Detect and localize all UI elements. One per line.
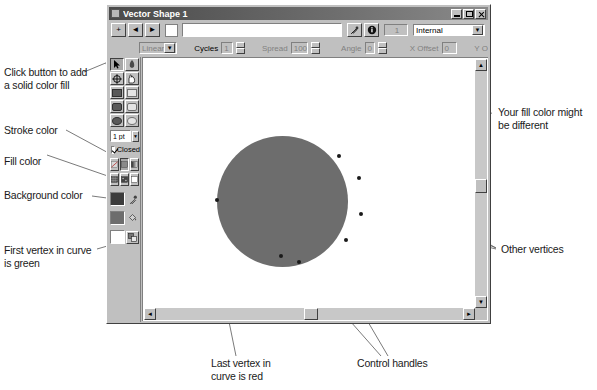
background-color-swatch[interactable] (110, 230, 125, 244)
info-icon[interactable] (364, 23, 379, 37)
no-fill-button[interactable] (110, 158, 119, 171)
gradient-fill-button[interactable] (130, 158, 139, 171)
filled-roundrect-tool[interactable] (110, 100, 124, 113)
pen-tool[interactable] (125, 58, 139, 71)
dropper-icon[interactable] (126, 192, 139, 206)
dropper-glyph (350, 26, 359, 35)
white-fill-icon (131, 175, 138, 184)
vector-shape-icon (111, 9, 120, 18)
cycles-field[interactable]: 1 (221, 42, 233, 54)
annotation-fill-color: Fill color (4, 155, 41, 168)
gradient-type-dropdown[interactable]: Linear ▼ (139, 42, 177, 54)
spread-stepper[interactable] (311, 42, 320, 54)
stroke-color-swatch[interactable] (110, 192, 125, 206)
pick-color-icon[interactable] (347, 23, 362, 37)
pointer-tool[interactable] (110, 58, 124, 71)
paint-bucket-glyph (128, 213, 137, 224)
scope-dropdown[interactable]: Internal ▼ (413, 24, 485, 36)
window-title: Vector Shape 1 (123, 9, 451, 19)
vertical-scrollbar[interactable]: ▲ ▼ (475, 59, 487, 308)
previous-stop-button[interactable]: ◄ (128, 23, 143, 37)
vertex-top-right[interactable] (337, 154, 341, 158)
swap-colors-icon[interactable] (126, 231, 139, 244)
scrollbar-corner (475, 308, 487, 320)
fill-color-swatch[interactable] (110, 211, 125, 225)
pointer-icon (113, 60, 121, 69)
horizontal-scrollbar[interactable]: ◄ ► (144, 308, 475, 320)
vertex-bottom[interactable] (297, 260, 301, 264)
closed-checkbox-row[interactable]: Closed (111, 145, 140, 154)
annotation-other-vertices: Other vertices (501, 243, 564, 256)
outline-ellipse-icon (127, 117, 137, 125)
scroll-up-button[interactable]: ▲ (475, 59, 487, 71)
hand-tool[interactable] (125, 72, 139, 85)
filled-ellipse-icon (112, 117, 122, 125)
vertical-scroll-thumb[interactable] (475, 179, 487, 193)
scroll-down-button[interactable]: ▼ (475, 296, 487, 308)
pen-width-chevron-icon[interactable]: ▼ (132, 131, 139, 142)
color-chip-swatch[interactable] (165, 24, 178, 37)
vertex-right-lower[interactable] (344, 238, 348, 242)
angle-label: Angle (341, 44, 361, 53)
texture-fill-icon (121, 175, 128, 184)
annotation-your-fill: Your fill color might be different (498, 106, 596, 132)
cycles-label: Cycles (194, 44, 218, 53)
vector-shape-window: Vector Shape 1 + ◄ ► (106, 4, 491, 324)
annotation-last-vertex: Last vertex in curve is red (211, 357, 306, 383)
vertex-bottom-left[interactable] (279, 254, 283, 258)
scope-dropdown-value: Internal (414, 26, 472, 35)
outline-rect-icon (127, 89, 137, 97)
crosshair-tool[interactable] (110, 72, 124, 85)
maximize-button[interactable] (463, 9, 474, 19)
drawing-canvas[interactable]: ▲ ▼ ◄ ► (142, 57, 488, 321)
vertex-left[interactable] (215, 198, 219, 202)
spread-field[interactable]: 100 (291, 42, 308, 54)
chevron-down-icon-2[interactable]: ▼ (164, 43, 175, 53)
stop-index-field[interactable]: 1 (384, 24, 408, 36)
no-fill-icon (111, 160, 118, 169)
outline-rect-tool[interactable] (125, 86, 139, 99)
solid-color-fill-button[interactable] (120, 158, 129, 171)
filled-roundrect-icon (112, 103, 122, 111)
annotation-stroke-color: Stroke color (4, 124, 58, 137)
window-titlebar[interactable]: Vector Shape 1 (109, 7, 488, 20)
filled-ellipse-tool[interactable] (110, 114, 124, 127)
scroll-right-button[interactable]: ► (463, 308, 475, 320)
outline-roundrect-tool[interactable] (125, 100, 139, 113)
vertex-right-mid[interactable] (359, 212, 363, 216)
pattern-fill-button[interactable] (110, 173, 119, 186)
angle-field[interactable]: 0 (365, 42, 375, 54)
close-button[interactable] (475, 9, 486, 19)
swap-colors-glyph (128, 233, 137, 242)
xoffset-field[interactable]: 0 (442, 42, 458, 54)
horizontal-scroll-thumb[interactable] (304, 308, 318, 320)
closed-checkbox[interactable] (111, 146, 115, 154)
chevron-down-icon[interactable]: ▼ (472, 25, 483, 35)
minimize-button[interactable] (451, 9, 462, 19)
closed-label: Closed (117, 145, 140, 154)
pen-icon (129, 60, 135, 70)
pattern-fill-icon (111, 175, 118, 184)
filled-rect-tool[interactable] (110, 86, 124, 99)
next-stop-button[interactable]: ► (145, 23, 160, 37)
scroll-left-button[interactable]: ◄ (144, 308, 156, 320)
texture-fill-button[interactable] (120, 173, 129, 186)
tool-palette: 1 pt ▼ Closed (109, 57, 141, 322)
pen-width-dropdown[interactable]: 1 pt (110, 130, 131, 142)
add-gradient-stop-button[interactable]: + (111, 23, 126, 37)
info-glyph (367, 25, 377, 35)
gradient-fill-icon (131, 160, 138, 169)
cycles-stepper[interactable] (236, 42, 245, 54)
paint-bucket-icon[interactable] (126, 211, 139, 225)
outline-ellipse-tool[interactable] (125, 114, 139, 127)
gradient-ramp-field[interactable] (182, 23, 342, 37)
filled-circle-shape[interactable] (217, 136, 348, 267)
angle-stepper[interactable] (378, 42, 387, 54)
vertex-right-upper[interactable] (357, 176, 361, 180)
gradient-properties-toolbar: Linear ▼ Cycles 1 Spread 100 Angle 0 X O… (109, 40, 488, 56)
dropper-glyph-2 (129, 194, 137, 205)
white-fill-button[interactable] (130, 173, 139, 186)
solid-fill-icon (121, 160, 128, 169)
annotation-background-color: Background color (4, 189, 83, 202)
annotation-control-handles: Control handles (357, 357, 428, 370)
